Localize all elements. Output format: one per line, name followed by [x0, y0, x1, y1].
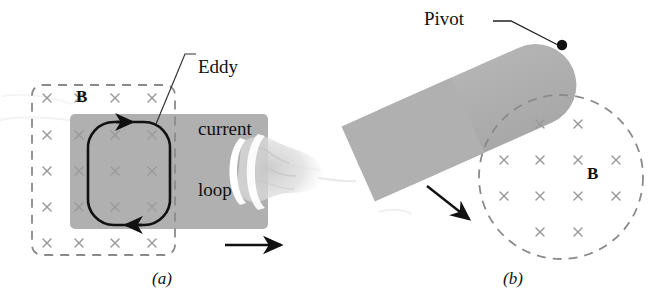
eddy-loop-annotation-line1: Eddy	[198, 57, 252, 78]
pivot-point	[557, 40, 567, 50]
panel-a-caption: (a)	[152, 270, 172, 288]
eddy-loop-annotation: Eddy current loop	[198, 16, 252, 242]
panel-b-group	[342, 21, 643, 259]
eddy-loop-annotation-line2: current	[198, 119, 252, 140]
field-region-b	[479, 95, 643, 259]
figure-canvas	[0, 0, 666, 303]
eddy-loop-annotation-line3: loop	[198, 180, 252, 201]
motion-arrow-b	[427, 186, 469, 219]
field-label-b: B	[587, 165, 598, 183]
swinging-bar	[342, 31, 590, 201]
pivot-leader-line	[493, 21, 558, 45]
eddy-loop-leader-line	[156, 54, 196, 124]
physics-figure: B Eddy current loop (a) Pivot B (b)	[0, 0, 666, 303]
field-label-a: B	[76, 88, 87, 106]
background-smudge-b	[378, 210, 412, 214]
panel-b-caption: (b)	[503, 270, 523, 288]
panel-a-group	[0, 54, 356, 255]
pivot-label: Pivot	[424, 9, 464, 30]
